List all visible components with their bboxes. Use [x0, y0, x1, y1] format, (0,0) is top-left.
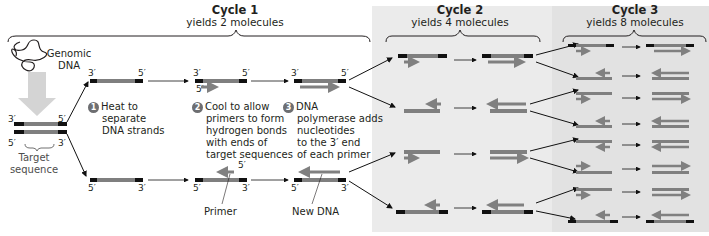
cycle-1-brace [8, 30, 370, 42]
down-arrow-icon [18, 72, 56, 116]
genomic-dna-icon [12, 40, 47, 71]
cycle-2-brace [386, 30, 540, 42]
cycle1-step1-strands [90, 79, 143, 182]
cycle1-step2-strands [195, 79, 247, 182]
diagram-graphics [0, 0, 709, 236]
cycle3-strands-before [568, 44, 618, 223]
cycle2-strands-after [482, 54, 533, 214]
target-sequence-brace [25, 144, 54, 151]
pcr-diagram: Cycle 1 yields 2 molecules Cycle 2 yield… [0, 0, 709, 236]
cycle-3-brace [563, 30, 706, 42]
cycle3-strands-after [646, 44, 694, 223]
cycle2-strands-before [396, 54, 448, 214]
cycle1-step3-strands [294, 79, 346, 182]
initial-double-strand [14, 122, 67, 134]
